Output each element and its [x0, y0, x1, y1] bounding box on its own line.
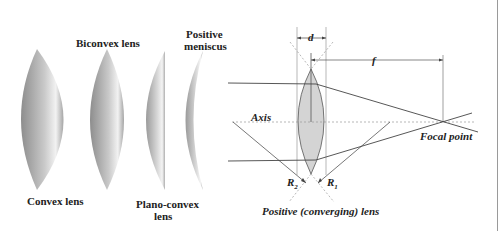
- focal-point-label: Focal point: [420, 130, 472, 142]
- radius-r1-label: R1: [327, 176, 338, 193]
- right-edge-border: [497, 0, 498, 231]
- focal-length-f-label: f: [372, 54, 376, 66]
- diagram-title: Positive (converging) lens: [262, 205, 379, 217]
- radius-r2-label: R2: [287, 176, 298, 193]
- r2-subscript: 2: [294, 183, 298, 191]
- biconvex-lens-label: Biconvex lens: [76, 37, 140, 49]
- plano-convex-label-line1: Plano-convex: [136, 198, 199, 210]
- axis-label: Axis: [251, 111, 271, 123]
- plano-convex-label-line2: lens: [154, 210, 172, 222]
- r1-subscript: 1: [334, 183, 338, 191]
- positive-meniscus-label-line1: Positive: [186, 28, 223, 40]
- positive-meniscus-label-line2: meniscus: [184, 40, 227, 52]
- positive-meniscus-lens-shape: [186, 51, 204, 190]
- thickness-d-label: d: [308, 31, 314, 43]
- convex-lens-shape: [21, 49, 64, 190]
- convex-lens-label: Convex lens: [27, 195, 84, 207]
- biconvex-lens-shape: [90, 49, 124, 190]
- plano-convex-lens-shape: [146, 51, 165, 190]
